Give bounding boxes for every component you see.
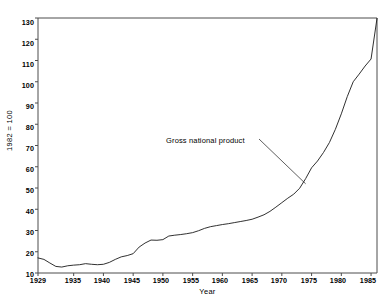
plot-area [0,0,386,302]
gnp-deflator-line [38,18,377,267]
chart-figure: 1982 = 100 Year 130 120 110 100 90 80 70… [0,0,386,302]
plot-frame [38,18,377,273]
annotation-leader-line [259,139,306,184]
